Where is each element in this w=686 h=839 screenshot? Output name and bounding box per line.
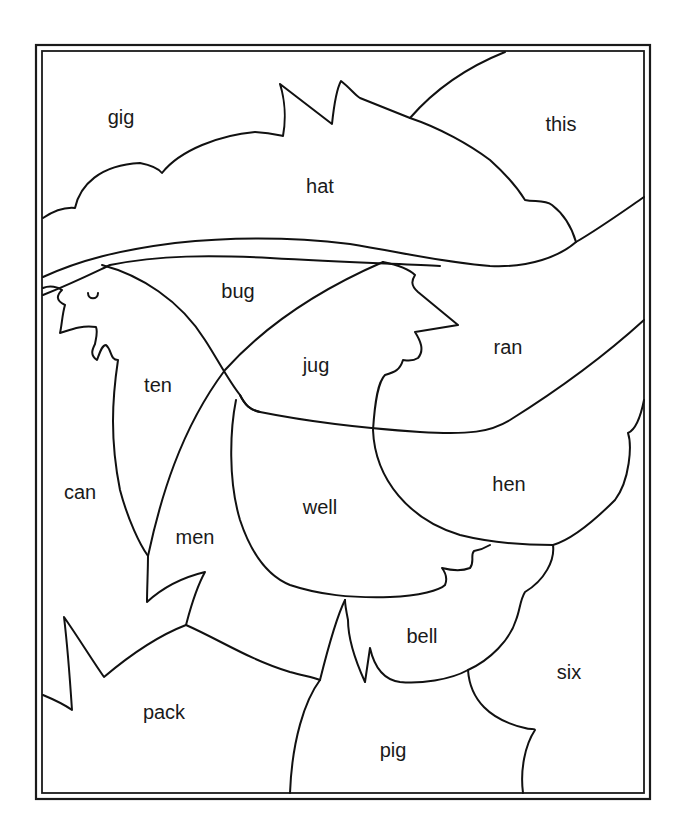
frame-inner <box>42 51 644 793</box>
pig-left-edge <box>290 600 345 793</box>
hen-back-edge <box>553 400 644 545</box>
region-label-bug[interactable]: bug <box>221 280 254 302</box>
hat-brim-top <box>43 197 644 277</box>
hen-in-hat-drawing <box>43 52 644 793</box>
word-labels: gig hat this bug jug ran ten can well he… <box>64 106 581 761</box>
hen-beak-comb <box>43 287 148 556</box>
region-label-can[interactable]: can <box>64 481 96 503</box>
region-label-pig[interactable]: pig <box>380 739 407 761</box>
region-label-ran[interactable]: ran <box>494 336 523 358</box>
region-label-this[interactable]: this <box>545 113 576 135</box>
pig-right-edge <box>468 670 535 793</box>
well-left-edge <box>231 400 490 597</box>
region-label-well[interactable]: well <box>302 496 337 518</box>
region-label-hat[interactable]: hat <box>306 175 334 197</box>
region-label-jug[interactable]: jug <box>302 354 330 376</box>
region-label-six[interactable]: six <box>557 661 581 683</box>
pack-top-edge <box>43 617 320 710</box>
men-tail-spike <box>147 556 205 625</box>
wing-line <box>240 320 644 433</box>
tail-feathers <box>373 262 553 545</box>
page-frame <box>36 45 650 799</box>
region-label-gig[interactable]: gig <box>108 106 135 128</box>
coloring-worksheet: gig hat this bug jug ran ten can well he… <box>0 0 686 839</box>
region-label-pack[interactable]: pack <box>143 701 186 723</box>
frame-outer <box>36 45 650 799</box>
neck-curve <box>148 262 383 556</box>
region-label-hen[interactable]: hen <box>492 473 525 495</box>
region-label-bell[interactable]: bell <box>406 625 437 647</box>
hen-eye <box>88 293 98 298</box>
region-label-ten[interactable]: ten <box>144 374 172 396</box>
bell-outline <box>345 545 553 683</box>
region-label-men[interactable]: men <box>176 526 215 548</box>
sky-divider <box>410 52 505 118</box>
